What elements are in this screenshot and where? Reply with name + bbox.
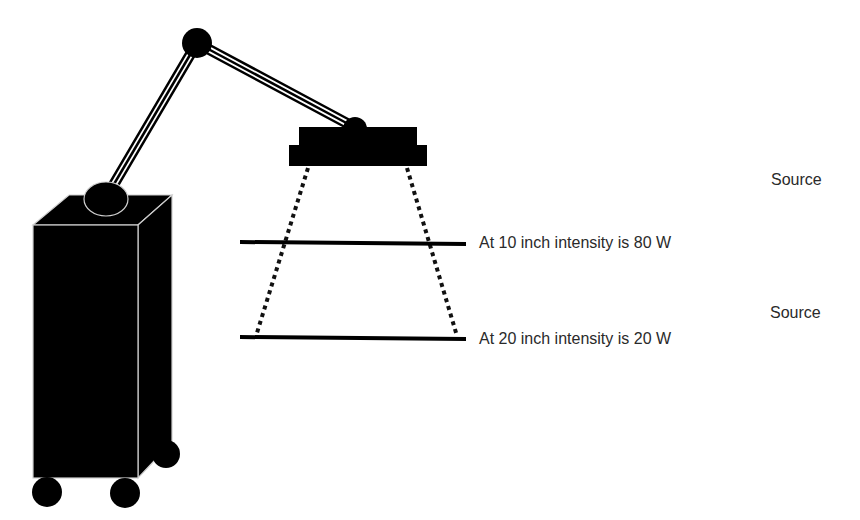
measurement-line-10-inch xyxy=(240,242,466,244)
base-pivot-joint xyxy=(84,182,128,216)
lamp-head-bottom xyxy=(289,145,427,166)
intensity-label-10-inch: At 10 inch intensity is 80 W xyxy=(479,235,671,251)
elbow-joint xyxy=(182,28,212,58)
cabinet-front-face xyxy=(33,225,138,478)
base-cabinet xyxy=(33,195,172,478)
lower-arm-core xyxy=(107,43,197,196)
lamp-arm xyxy=(107,28,352,196)
beam-lines xyxy=(256,168,457,336)
heat-lamp-diagram xyxy=(0,0,860,520)
cabinet-side-face xyxy=(138,195,172,478)
upper-arm-core xyxy=(197,43,352,126)
beam-right xyxy=(407,168,457,336)
rear-wheel xyxy=(152,440,180,468)
beam-left xyxy=(256,168,308,336)
intensity-label-20-inch: At 20 inch intensity is 20 W xyxy=(479,331,671,347)
lamp-head-top xyxy=(299,127,417,147)
front-right-wheel xyxy=(110,478,140,508)
measurement-line-20-inch xyxy=(240,337,466,339)
lamp-head xyxy=(289,117,427,166)
front-left-wheel xyxy=(32,477,62,507)
source-label-bottom: Source xyxy=(770,305,821,321)
source-label-top: Source xyxy=(771,172,822,188)
